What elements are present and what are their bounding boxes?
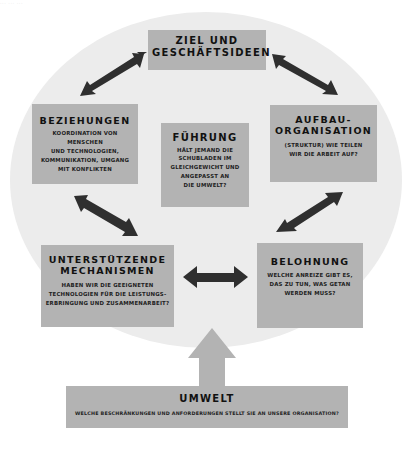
leadership-line-1: HÄLT JEMAND DIE [165, 146, 245, 155]
relationships-line-1: KOORDINATION VON MENSCHEN [36, 129, 134, 147]
relationships-line-3: KOMMUNIKATION, UMGANG [36, 156, 134, 165]
leadership-line-3: GLEICHGEWICHT UND [165, 163, 245, 172]
mechanisms-description: HABEN WIR DIE GEEIGNETEN TECHNOLOGIEN FÜ… [45, 281, 170, 308]
box-structure: AUFBAU- ORGANISATION (STRUKTUR) WIE TEIL… [270, 105, 377, 182]
arrow-structure-rewards-icon [276, 192, 343, 232]
mechanisms-line-2: TECHNOLOGIEN FÜR DIE LEISTUNGS- [45, 290, 170, 299]
box-relationships: BEZIEHUNGEN KOORDINATION VON MENSCHEN UN… [32, 104, 138, 184]
leadership-line-5: DIE UMWELT? [165, 181, 245, 190]
structure-line-2: WIR DIE ARBEIT AUF? [274, 150, 373, 159]
mechanisms-title-line-2: MECHANISMEN [45, 266, 170, 277]
mechanisms-line-3: ERBRINGUNG UND ZUSAMMENARBEIT? [45, 299, 170, 308]
leadership-title: FÜHRUNG [165, 132, 245, 144]
box-environment: UMWELT WELCHE BESCHRÄNKUNGEN UND ANFORDE… [66, 386, 348, 428]
structure-line-1: (STRUKTUR) WIE TEILEN [274, 141, 373, 150]
mechanisms-line-1: HABEN WIR DIE GEEIGNETEN [45, 281, 170, 290]
rewards-line-3: WERDEN MUSS? [261, 289, 359, 298]
arrow-goal-structure-icon [272, 54, 338, 95]
box-mechanisms: UNTERSTÜTZENDE MECHANISMEN HABEN WIR DIE… [41, 245, 174, 327]
rewards-description: WELCHE ANREIZE GIBT ES, DAS ZU TUN, WAS … [261, 271, 359, 298]
rewards-line-1: WELCHE ANREIZE GIBT ES, [261, 271, 359, 280]
rewards-line-2: DAS ZU TUN, WAS GETAN [261, 280, 359, 289]
arrow-goal-relationships-icon [80, 53, 144, 96]
environment-description: WELCHE BESCHRÄNKUNGEN UND ANFORDERUNGEN … [70, 410, 344, 418]
relationships-line-2: UND TECHNOLOGIEN, [36, 147, 134, 156]
box-leadership: FÜHRUNG HÄLT JEMAND DIE SCHUBLADEN IM GL… [161, 123, 249, 207]
arrow-mechanisms-rewards-icon [183, 266, 248, 288]
structure-title-line-2: ORGANISATION [274, 126, 373, 137]
box-goal: ZIEL UND GESCHÄFTSIDEEN [148, 30, 266, 70]
leadership-line-4: ANGEPASST AN [165, 172, 245, 181]
arrow-relationships-mechanisms-icon [74, 195, 138, 236]
goal-title-line-1: ZIEL UND [152, 35, 262, 47]
relationships-description: KOORDINATION VON MENSCHEN UND TECHNOLOGI… [36, 129, 134, 174]
environment-title: UMWELT [70, 393, 344, 405]
leadership-line-2: SCHUBLADEN IM [165, 154, 245, 163]
goal-title-line-2: GESCHÄFTSIDEEN [152, 47, 262, 59]
structure-description: (STRUKTUR) WIE TEILEN WIR DIE ARBEIT AUF… [274, 141, 373, 159]
rewards-title: BELOHNUNG [261, 257, 359, 268]
box-rewards: BELOHNUNG WELCHE ANREIZE GIBT ES, DAS ZU… [257, 243, 363, 328]
leadership-description: HÄLT JEMAND DIE SCHUBLADEN IM GLEICHGEWI… [165, 146, 245, 191]
arrow-goal-relationships-icon [0, 0, 147, 56]
relationships-title: BEZIEHUNGEN [36, 116, 134, 127]
arrow-environment-up-icon [188, 328, 236, 392]
relationships-line-4: MIT KONFLIKTEN [36, 165, 134, 174]
